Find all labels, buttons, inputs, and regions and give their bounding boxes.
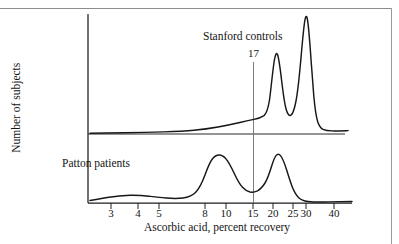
x-tick-label-15: 15 — [248, 207, 259, 219]
y-axis-label: Number of subjects — [11, 42, 23, 174]
figure-container: Number of subjects Stanford controls Pat… — [0, 0, 399, 244]
reference-line-label: 17 — [248, 48, 259, 59]
series-label-stanford-controls: Stanford controls — [203, 31, 283, 43]
x-tick-label-10: 10 — [221, 207, 232, 219]
x-tick-label-40: 40 — [329, 207, 340, 219]
x-tick-label-8: 8 — [202, 207, 208, 219]
x-axis-label: Ascorbic acid, percent recovery — [88, 222, 346, 234]
x-tick-label-25: 25 — [288, 207, 299, 219]
x-tick-label-5: 5 — [156, 207, 162, 219]
x-tick-label-4: 4 — [135, 207, 141, 219]
series-label-patton-patients: Patton patients — [62, 158, 130, 170]
x-tick-label-3: 3 — [108, 207, 114, 219]
x-tick-label-20: 20 — [268, 207, 279, 219]
x-tick-label-30: 30 — [301, 207, 312, 219]
